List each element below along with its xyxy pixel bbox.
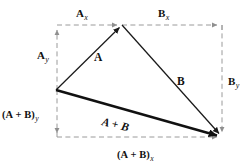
diagram-canvas	[0, 0, 248, 167]
label-a-plus-b-x: (A + B)x	[117, 150, 153, 161]
label-a-y: Ay	[37, 50, 49, 61]
vector-a	[56, 28, 120, 91]
vector-addition-diagram: Ax Bx Ay By A B A + B (A + B)y (A + B)x	[0, 0, 248, 167]
label-vector-a: A	[94, 52, 102, 64]
label-a-x: Ax	[76, 8, 88, 19]
vector-a-plus-b	[56, 90, 217, 136]
guide-corner-stubs	[57, 25, 222, 137]
component-guide-lines	[57, 25, 222, 137]
label-vector-b: B	[177, 76, 185, 88]
label-a-plus-b-y: (A + B)y	[2, 110, 38, 121]
vector-b	[122, 25, 219, 134]
label-b-x: Bx	[158, 8, 169, 19]
label-b-y: By	[228, 76, 239, 87]
